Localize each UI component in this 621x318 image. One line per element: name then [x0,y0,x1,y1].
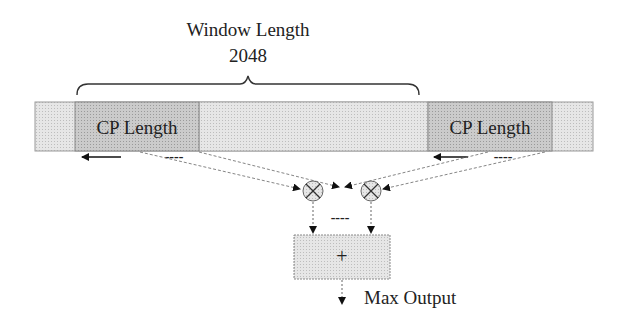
cp-length-right: CP Length [428,102,552,151]
max-output-label: Max Output [364,287,457,308]
multiplier-2-icon [361,181,381,201]
window-length-label: Window Length 2048 [186,19,310,66]
connection-lines [140,152,545,189]
cp-correlation-diagram: Window Length 2048 CP Length CP Length -… [0,0,621,318]
window-body [199,102,428,151]
multiplier-1-icon [303,181,323,201]
window-brace [77,76,419,95]
adder-symbol: + [336,245,347,267]
cp-length-left-label: CP Length [96,117,178,138]
multiplier-ellipsis: ---- [331,210,350,225]
adder-block: + [294,235,390,279]
cp-length-left: CP Length [75,102,199,151]
cp-length-right-label: CP Length [449,117,531,138]
window-length-title: Window Length [186,19,310,40]
window-length-value: 2048 [229,45,267,66]
